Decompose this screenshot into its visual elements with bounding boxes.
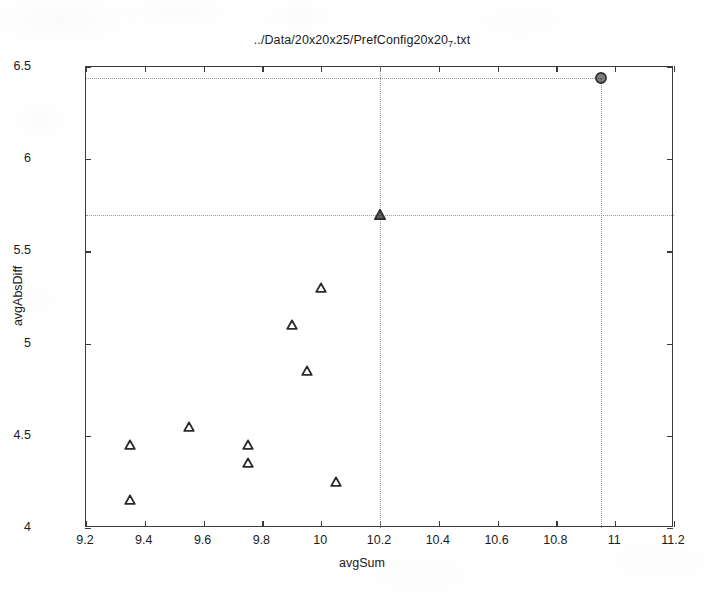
x-tick-top bbox=[145, 66, 146, 72]
data-point-marker bbox=[240, 455, 256, 471]
x-tick-label: 9.8 bbox=[253, 533, 270, 547]
x-tick bbox=[556, 521, 557, 527]
x-tick-top bbox=[556, 66, 557, 72]
x-tick-top bbox=[615, 66, 616, 72]
x-tick bbox=[321, 521, 322, 527]
chart-title-main: ../Data/20x20x25/PrefConfig20x20 bbox=[254, 33, 448, 47]
y-tick-right bbox=[667, 344, 673, 345]
x-tick bbox=[262, 521, 263, 527]
x-tick-label: 9.6 bbox=[194, 533, 211, 547]
scatter-plot-figure: ../Data/20x20x25/PrefConfig20x207.txt 9.… bbox=[0, 0, 724, 598]
chart-title: ../Data/20x20x25/PrefConfig20x207.txt bbox=[0, 33, 724, 47]
x-tick bbox=[439, 521, 440, 527]
x-tick-label: 11.2 bbox=[661, 533, 684, 547]
y-tick bbox=[85, 251, 91, 252]
y-tick bbox=[85, 436, 91, 437]
y-tick-label: 4 bbox=[24, 520, 31, 534]
data-point-marker bbox=[122, 437, 138, 453]
y-tick bbox=[85, 344, 91, 345]
x-tick-label: 9.4 bbox=[135, 533, 152, 547]
x-tick-label: 10.6 bbox=[484, 533, 508, 547]
x-tick-label: 10 bbox=[313, 533, 327, 547]
y-tick-right bbox=[667, 436, 673, 437]
data-point-marker bbox=[240, 437, 256, 453]
y-tick bbox=[85, 67, 91, 68]
y-tick-label: 5.5 bbox=[14, 243, 31, 257]
reference-line-vertical bbox=[601, 78, 602, 528]
x-tick-top bbox=[674, 66, 675, 72]
y-tick bbox=[85, 528, 91, 529]
x-tick-label: 11 bbox=[608, 533, 621, 547]
data-point-marker bbox=[593, 70, 609, 86]
y-tick-label: 6.5 bbox=[14, 59, 31, 73]
x-tick-top bbox=[498, 66, 499, 72]
x-tick bbox=[145, 521, 146, 527]
data-point-marker bbox=[181, 419, 197, 435]
x-tick-top bbox=[204, 66, 205, 72]
data-point-marker bbox=[284, 317, 300, 333]
chart-title-extension: .txt bbox=[453, 33, 470, 47]
data-point-marker bbox=[328, 474, 344, 490]
y-tick bbox=[85, 159, 91, 160]
x-tick-top bbox=[262, 66, 263, 72]
y-tick-label: 4.5 bbox=[14, 428, 31, 442]
y-tick-right bbox=[667, 159, 673, 160]
data-point-marker bbox=[299, 363, 315, 379]
data-point-marker bbox=[372, 207, 388, 223]
data-point-marker bbox=[122, 492, 138, 508]
x-tick-label: 9.2 bbox=[76, 533, 93, 547]
y-tick-right bbox=[667, 67, 673, 68]
y-axis-label: avgAbsDiff bbox=[11, 266, 25, 326]
x-tick bbox=[86, 521, 87, 527]
data-point-marker bbox=[313, 280, 329, 296]
x-axis-label: avgSum bbox=[0, 556, 724, 570]
x-tick-label: 10.8 bbox=[543, 533, 567, 547]
x-tick bbox=[674, 521, 675, 527]
x-tick-label: 10.2 bbox=[367, 533, 391, 547]
y-tick-label: 5 bbox=[24, 336, 31, 350]
reference-line-horizontal bbox=[86, 78, 601, 79]
x-tick bbox=[204, 521, 205, 527]
x-tick bbox=[498, 521, 499, 527]
x-tick-label: 10.4 bbox=[426, 533, 450, 547]
chart-title-subscript: 7 bbox=[448, 39, 453, 49]
reference-line-vertical bbox=[380, 67, 381, 528]
x-tick-top bbox=[321, 66, 322, 72]
plot-area bbox=[85, 66, 673, 527]
y-tick-right bbox=[667, 528, 673, 529]
x-tick-top bbox=[439, 66, 440, 72]
x-tick bbox=[615, 521, 616, 527]
y-tick-label: 6 bbox=[24, 151, 31, 165]
y-tick-right bbox=[667, 251, 673, 252]
